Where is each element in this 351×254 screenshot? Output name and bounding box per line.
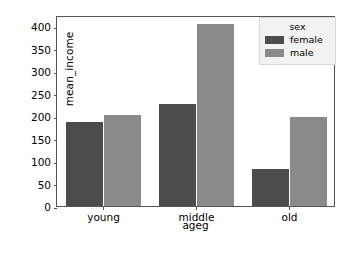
- bar-old-female: [252, 169, 289, 206]
- bar-young-female: [66, 122, 103, 206]
- legend-title: sex: [265, 21, 330, 32]
- y-tick-mark: [54, 28, 58, 29]
- y-tick-mark: [54, 50, 58, 51]
- legend-item-male: male: [265, 47, 330, 59]
- bar-old-male: [290, 117, 327, 206]
- y-tick-mark: [54, 140, 58, 141]
- plot-area: mean_income 050100150200250300350400 you…: [56, 16, 335, 207]
- y-tick-label: 350: [31, 44, 51, 56]
- y-tick-mark: [54, 185, 58, 186]
- y-tick-label: 150: [31, 134, 51, 146]
- y-tick-label: 200: [31, 111, 51, 123]
- legend-label: male: [290, 48, 314, 58]
- legend-entries: femalemale: [265, 34, 330, 59]
- x-tick-mark: [289, 206, 290, 210]
- x-axis-label: ageg: [56, 219, 335, 231]
- x-tick-mark: [103, 206, 104, 210]
- legend-label: female: [290, 35, 323, 45]
- y-tick-mark: [54, 163, 58, 164]
- legend-item-female: female: [265, 34, 330, 46]
- legend-swatch-male: [265, 49, 284, 57]
- bar-middle-female: [159, 104, 196, 206]
- x-tick-mark: [196, 206, 197, 210]
- y-tick-label: 250: [31, 89, 51, 101]
- legend: sex femalemale: [259, 17, 336, 65]
- y-tick-mark: [54, 208, 58, 209]
- y-tick-label: 300: [31, 66, 51, 78]
- y-tick-mark: [54, 95, 58, 96]
- y-axis-label: mean_income: [63, 19, 75, 119]
- bar-chart-figure: mean_income 050100150200250300350400 you…: [0, 0, 351, 254]
- y-tick-label: 0: [44, 201, 51, 213]
- bar-middle-male: [197, 24, 234, 206]
- y-tick-label: 100: [31, 156, 51, 168]
- y-tick-mark: [54, 118, 58, 119]
- y-tick-mark: [54, 73, 58, 74]
- y-tick-label: 400: [31, 21, 51, 33]
- y-tick-label: 50: [38, 179, 51, 191]
- legend-swatch-female: [265, 36, 284, 44]
- bar-young-male: [104, 115, 141, 206]
